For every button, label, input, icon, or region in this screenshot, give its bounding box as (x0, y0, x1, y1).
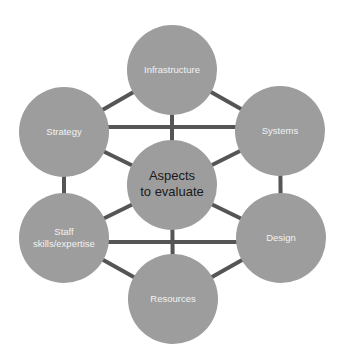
node-systems: Systems (235, 86, 325, 176)
node-label: Infrastructure (144, 64, 200, 75)
node-label: skills/expertise (33, 238, 95, 249)
node-label: Aspects (149, 168, 196, 183)
node-strategy: Strategy (19, 87, 109, 177)
center-node: Aspectsto evaluate (127, 140, 217, 230)
node-staff: Staffskills/expertise (19, 193, 109, 283)
node-label: to evaluate (140, 184, 204, 199)
node-label: Resources (150, 293, 196, 304)
node-label: Staff (54, 226, 74, 237)
node-label: Systems (262, 125, 299, 136)
node-label: Design (266, 232, 296, 243)
node-infrastructure: Infrastructure (127, 25, 217, 115)
aspects-diagram: InfrastructureStrategySystemsStaffskills… (0, 0, 343, 363)
node-resources: Resources (128, 254, 218, 344)
node-design: Design (236, 193, 326, 283)
node-label: Strategy (46, 126, 82, 137)
